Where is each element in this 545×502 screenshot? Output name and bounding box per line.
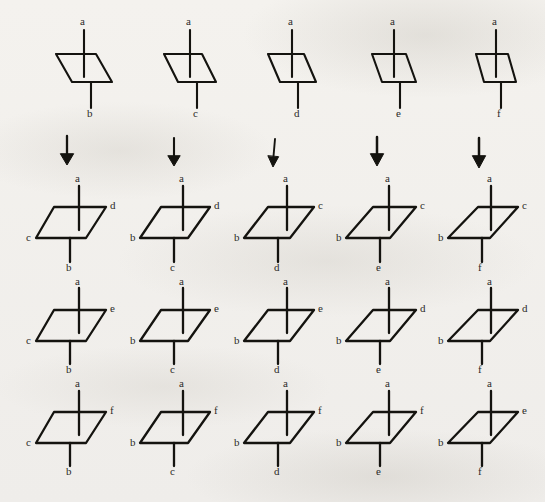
label-top-r3c5: a: [487, 276, 492, 287]
figure-r1c2: a c: [140, 20, 240, 120]
label-top-r3c3: a: [283, 276, 288, 287]
label-top-r1c5: a: [492, 16, 497, 27]
figure-r4c1: a c f b: [24, 388, 134, 488]
figure-r2c4: a b c e: [334, 180, 444, 280]
label-top-r4c5: a: [487, 378, 492, 389]
label-right-r3c3: e: [318, 303, 323, 314]
label-top-r4c2: a: [179, 378, 184, 389]
figure-r4c3: a b f d: [232, 388, 342, 488]
figure-r3c3: a b e d: [232, 285, 342, 385]
label-bottom-r3c5: f: [478, 364, 482, 375]
label-top-r3c4: a: [385, 276, 390, 287]
label-bottom-r4c1: b: [66, 466, 72, 477]
figure-r3c2: a b e c: [128, 285, 238, 385]
label-left-r4c1: c: [26, 437, 31, 448]
figure-r1c5: a f: [446, 20, 545, 120]
figure-r2c2: a b d c: [128, 180, 238, 280]
diagram-sheet: a b a c a d: [0, 0, 545, 502]
label-bottom-r2c3: d: [274, 262, 280, 273]
label-left-r3c1: c: [26, 335, 31, 346]
label-left-r4c2: b: [130, 437, 136, 448]
down-arrow-3: [263, 137, 285, 175]
figure-r4c5: a b e f: [436, 388, 545, 488]
label-top-r1c1: a: [80, 16, 85, 27]
down-arrow-5: [468, 136, 490, 174]
figure-r3c1: a c e b: [24, 285, 134, 385]
label-left-r3c3: b: [234, 335, 240, 346]
label-bottom-r1c5: f: [497, 108, 501, 119]
down-arrow-1: [56, 134, 78, 172]
label-top-r1c3: a: [288, 16, 293, 27]
label-left-r3c5: b: [438, 335, 444, 346]
label-left-r2c2: b: [130, 232, 136, 243]
label-bottom-r1c2: c: [193, 108, 198, 119]
label-bottom-r1c1: b: [87, 108, 93, 119]
label-bottom-r4c2: c: [170, 466, 175, 477]
down-arrow-4: [366, 135, 388, 173]
label-top-r4c1: a: [75, 378, 80, 389]
figure-r3c4: a b d e: [334, 285, 444, 385]
label-bottom-r2c2: c: [170, 262, 175, 273]
label-right-r3c1: e: [110, 303, 115, 314]
label-left-r4c3: b: [234, 437, 240, 448]
label-bottom-r3c3: d: [274, 364, 280, 375]
label-bottom-r2c5: f: [478, 262, 482, 273]
label-right-r2c2: d: [214, 200, 220, 211]
label-left-r4c5: b: [438, 437, 444, 448]
label-right-r4c5: e: [522, 405, 527, 416]
figure-r2c5: a b c f: [436, 180, 545, 280]
label-bottom-r4c5: f: [478, 466, 482, 477]
label-right-r4c4: f: [420, 405, 424, 416]
figure-r4c4: a b f e: [334, 388, 444, 488]
label-top-r2c5: a: [487, 173, 492, 184]
label-bottom-r4c3: d: [274, 466, 280, 477]
label-right-r4c3: f: [318, 405, 322, 416]
label-top-r1c4: a: [390, 16, 395, 27]
label-top-r3c1: a: [75, 276, 80, 287]
label-right-r2c4: c: [420, 200, 425, 211]
figure-r3c5: a b d f: [436, 285, 545, 385]
label-right-r4c1: f: [110, 405, 114, 416]
label-right-r3c2: e: [214, 303, 219, 314]
down-arrow-2: [163, 136, 185, 174]
label-right-r2c1: d: [110, 200, 116, 211]
label-bottom-r1c3: d: [294, 108, 300, 119]
label-bottom-r3c4: e: [376, 364, 381, 375]
figure-r1c3: a d: [242, 20, 342, 120]
label-bottom-r3c1: b: [66, 364, 72, 375]
figure-r1c1: a b: [34, 20, 134, 120]
label-left-r2c4: b: [336, 232, 342, 243]
label-left-r4c4: b: [336, 437, 342, 448]
label-top-r2c4: a: [385, 173, 390, 184]
figure-r4c2: a b f c: [128, 388, 238, 488]
label-right-r3c4: d: [420, 303, 426, 314]
label-right-r3c5: d: [522, 303, 528, 314]
label-left-r2c1: c: [26, 232, 31, 243]
label-left-r3c4: b: [336, 335, 342, 346]
label-top-r3c2: a: [179, 276, 184, 287]
label-top-r2c3: a: [283, 173, 288, 184]
label-top-r2c1: a: [75, 173, 80, 184]
label-top-r1c2: a: [186, 16, 191, 27]
label-bottom-r1c4: e: [396, 108, 401, 119]
label-left-r2c5: b: [438, 232, 444, 243]
label-bottom-r4c4: e: [376, 466, 381, 477]
figure-r2c1: a c d b: [24, 180, 134, 280]
label-bottom-r2c4: e: [376, 262, 381, 273]
figure-r1c4: a e: [344, 20, 444, 120]
label-top-r2c2: a: [179, 173, 184, 184]
label-left-r2c3: b: [234, 232, 240, 243]
figure-r2c3: a b c d: [232, 180, 342, 280]
label-bottom-r2c1: b: [66, 262, 72, 273]
label-right-r4c2: f: [214, 405, 218, 416]
label-right-r2c3: c: [318, 200, 323, 211]
label-top-r4c3: a: [283, 378, 288, 389]
label-right-r2c5: c: [522, 200, 527, 211]
label-left-r3c2: b: [130, 335, 136, 346]
label-bottom-r3c2: c: [170, 364, 175, 375]
label-top-r4c4: a: [385, 378, 390, 389]
